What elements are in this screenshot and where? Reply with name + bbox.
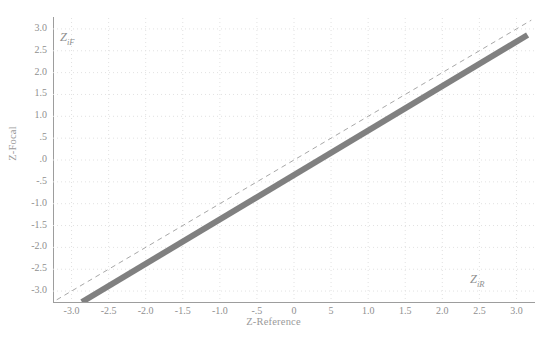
x-tick-label: 1.5 bbox=[385, 305, 425, 316]
data-line-series bbox=[82, 35, 528, 302]
y-tick-label: -2.0 bbox=[13, 240, 47, 251]
y-tick-label: 3.0 bbox=[13, 22, 47, 33]
x-tick-label: -2.0 bbox=[126, 305, 166, 316]
annotation-subscript: iR bbox=[477, 279, 485, 289]
y-tick-label: .0 bbox=[13, 153, 47, 164]
y-tick-label: -1.0 bbox=[13, 197, 47, 208]
x-tick-label: -2.5 bbox=[89, 305, 129, 316]
y-tick-label: -.5 bbox=[13, 175, 47, 186]
y-tick-label: 2.5 bbox=[13, 44, 47, 55]
x-tick-label: 2.0 bbox=[422, 305, 462, 316]
x-tick-label: 5 bbox=[311, 305, 351, 316]
x-tick-label: 2.5 bbox=[459, 305, 499, 316]
y-tick-label: 2.0 bbox=[13, 66, 47, 77]
x-tick-label: -.5 bbox=[237, 305, 277, 316]
annotation-base: Z bbox=[470, 272, 477, 286]
y-tick-label: 1.0 bbox=[13, 109, 47, 120]
z-if-annotation: ZiF bbox=[60, 30, 75, 47]
y-tick-label: -2.5 bbox=[13, 262, 47, 273]
x-tick-label: 0 bbox=[274, 305, 314, 316]
x-tick-label: 3.0 bbox=[496, 305, 536, 316]
y-tick-label: -3.0 bbox=[13, 284, 47, 295]
z-ir-annotation: ZiR bbox=[470, 272, 485, 289]
x-tick-label: -1.0 bbox=[200, 305, 240, 316]
annotation-subscript: iF bbox=[67, 37, 75, 47]
y-tick-label: -1.5 bbox=[13, 219, 47, 230]
y-tick-label: 1.5 bbox=[13, 87, 47, 98]
x-tick-label: -1.5 bbox=[163, 305, 203, 316]
x-tick-label: 1.0 bbox=[348, 305, 388, 316]
x-tick-label: -3.0 bbox=[52, 305, 92, 316]
chart-root: Z-Focal Z-Reference 3.02.52.01.51.0.5.0-… bbox=[0, 0, 547, 340]
annotation-base: Z bbox=[60, 30, 67, 44]
y-tick-label: .5 bbox=[13, 131, 47, 142]
plot-canvas bbox=[0, 0, 547, 340]
